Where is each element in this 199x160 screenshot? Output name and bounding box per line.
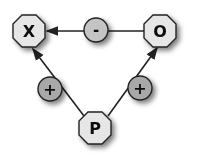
sign-minus: - xyxy=(84,18,108,42)
feedback-diagram: - + + X O P xyxy=(0,0,199,160)
node-o: O xyxy=(144,15,176,47)
sign-minus-label: - xyxy=(93,21,99,39)
sign-plus-left: + xyxy=(38,77,62,101)
node-x: X xyxy=(13,15,45,47)
node-p-label: P xyxy=(89,119,101,138)
node-x-label: X xyxy=(23,22,36,41)
sign-plus-right-label: + xyxy=(133,79,146,98)
node-o-label: O xyxy=(153,22,167,41)
sign-plus-left-label: + xyxy=(43,80,56,99)
sign-plus-right: + xyxy=(128,76,152,100)
node-p: P xyxy=(79,112,111,144)
